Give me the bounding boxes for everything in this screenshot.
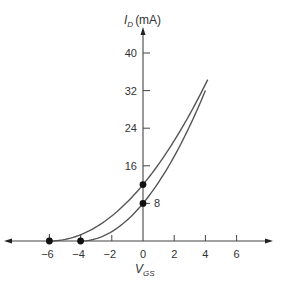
x-tick-label: −4 [72, 248, 85, 260]
axes [4, 27, 273, 244]
y-tick-label: 40 [125, 47, 137, 59]
data-point-marker [140, 200, 147, 207]
y-tick-label: 24 [125, 122, 137, 134]
y-tick-label: 16 [125, 160, 137, 172]
x-axis-left-arrow-icon [4, 239, 12, 244]
x-tick-label: 0 [140, 248, 146, 260]
y-tick-label: 32 [125, 85, 137, 97]
transfer-characteristic-chart: −6−4−20246816243240ID(mA)VGS [0, 0, 285, 292]
y-axis-title: ID(mA) [124, 13, 161, 29]
x-tick-label: −2 [104, 248, 117, 260]
y-tick-label: 8 [154, 197, 160, 209]
data-point-marker [46, 238, 53, 245]
y-axis-arrow-icon [141, 27, 146, 35]
data-point-marker [77, 238, 84, 245]
x-tick-label: 4 [202, 248, 208, 260]
x-axis-title: VGS [135, 262, 155, 278]
data-point-marker [140, 181, 147, 188]
x-tick-label: 2 [171, 248, 177, 260]
x-tick-label: −6 [41, 248, 54, 260]
x-tick-label: 6 [234, 248, 240, 260]
x-axis-right-arrow-icon [265, 239, 273, 244]
